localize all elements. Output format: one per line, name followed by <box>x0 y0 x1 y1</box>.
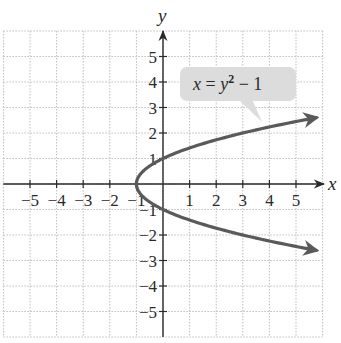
y-tick-label: 4 <box>149 73 158 92</box>
x-tick-label: 3 <box>239 191 248 210</box>
x-tick-label: −5 <box>21 191 39 210</box>
callout-tail <box>238 99 262 122</box>
x-tick-label: 5 <box>292 191 301 210</box>
y-tick-label: −2 <box>139 226 157 245</box>
y-tick-label: −5 <box>139 303 157 322</box>
x-tick-label: −2 <box>101 191 119 210</box>
equation-callout: x = y2 − 1 <box>180 67 296 122</box>
x-tick-label: −3 <box>74 191 92 210</box>
y-tick-label: 2 <box>149 124 158 143</box>
y-tick-label: 3 <box>149 99 158 118</box>
x-tick-label: −4 <box>48 191 67 210</box>
y-axis-label: y <box>156 5 167 26</box>
parabola-chart: −5−4−3−2−112345−5−4−3−2−112345 x = y2 − … <box>0 0 341 343</box>
x-tick-label: 2 <box>212 191 221 210</box>
x-tick-label: 1 <box>185 191 194 210</box>
y-tick-label: 5 <box>149 48 158 67</box>
x-tick-label: 4 <box>265 191 274 210</box>
y-tick-label: −4 <box>139 277 158 296</box>
x-axis-label: x <box>327 173 337 194</box>
y-tick-label: −3 <box>139 252 157 271</box>
equation-label: x = y2 − 1 <box>192 72 262 94</box>
